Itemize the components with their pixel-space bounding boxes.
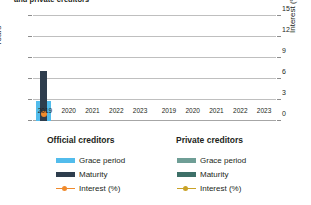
legend-label: Maturity bbox=[79, 170, 107, 179]
y-axis-right-tick-label: 9 bbox=[282, 47, 304, 54]
legend-label: Maturity bbox=[200, 170, 228, 179]
category-group bbox=[205, 16, 229, 121]
category-group bbox=[33, 16, 57, 121]
legend-line-marker-icon bbox=[177, 186, 196, 191]
panel-private-creditors bbox=[157, 16, 276, 121]
category-group bbox=[252, 16, 276, 121]
legend-swatch-icon bbox=[56, 158, 75, 163]
x-axis-tick-label: 2019 bbox=[33, 107, 57, 114]
x-axis-tick-label: 2022 bbox=[228, 107, 252, 114]
legend-item[interactable]: Grace period bbox=[177, 153, 246, 167]
panel-heading-official: Official creditors bbox=[47, 135, 115, 145]
legend-private-creditors: Grace periodMaturityInterest (%) bbox=[177, 153, 246, 195]
category-group bbox=[104, 16, 128, 121]
y-axis-right-tick-label: 6 bbox=[282, 68, 304, 75]
x-axis-tick-label: 2020 bbox=[181, 107, 205, 114]
tick-mark bbox=[277, 36, 281, 37]
tick-mark bbox=[28, 120, 32, 121]
tick-mark bbox=[28, 36, 32, 37]
category-group bbox=[128, 16, 152, 121]
tick-mark bbox=[277, 15, 281, 16]
legend-official-creditors: Grace periodMaturityInterest (%) bbox=[56, 153, 125, 195]
x-axis-labels-official: 20192020202120222023 bbox=[33, 107, 152, 117]
y-axis-right-tick-label: 0 bbox=[282, 110, 304, 117]
legend-item[interactable]: Maturity bbox=[177, 167, 246, 181]
legend-item[interactable]: Interest (%) bbox=[56, 181, 125, 195]
x-axis-tick-label: 2022 bbox=[104, 107, 128, 114]
chart-title: and private creditors bbox=[14, 0, 89, 4]
x-axis-tick-label: 2023 bbox=[252, 107, 276, 114]
y-axis-left-title: Years bbox=[0, 26, 3, 46]
legend-swatch-icon bbox=[177, 158, 196, 163]
legend-line-marker-icon bbox=[56, 186, 75, 191]
tick-mark bbox=[28, 15, 32, 16]
category-group bbox=[181, 16, 205, 121]
legend-item[interactable]: Grace period bbox=[56, 153, 125, 167]
legend-label: Grace period bbox=[79, 156, 125, 165]
category-group bbox=[81, 16, 105, 121]
legend-item[interactable]: Maturity bbox=[56, 167, 125, 181]
x-axis-tick-label: 2019 bbox=[157, 107, 181, 114]
category-group bbox=[57, 16, 81, 121]
legend-label: Interest (%) bbox=[200, 184, 241, 193]
x-axis-tick-label: 2020 bbox=[57, 107, 81, 114]
tick-mark bbox=[28, 99, 32, 100]
panel-heading-private: Private creditors bbox=[176, 135, 243, 145]
y-axis-right-tick-label: 3 bbox=[282, 89, 304, 96]
legend-item[interactable]: Interest (%) bbox=[177, 181, 246, 195]
category-group bbox=[228, 16, 252, 121]
legend-swatch-icon bbox=[177, 172, 196, 177]
x-axis-tick-label: 2023 bbox=[128, 107, 152, 114]
tick-mark bbox=[277, 78, 281, 79]
tick-mark bbox=[277, 57, 281, 58]
tick-mark bbox=[28, 78, 32, 79]
x-axis-labels-private: 20192020202120222023 bbox=[157, 107, 276, 117]
tick-mark bbox=[277, 120, 281, 121]
legend-swatch-icon bbox=[56, 172, 75, 177]
plot-area: 01020304050 03691215 bbox=[33, 16, 276, 121]
x-axis-tick-label: 2021 bbox=[205, 107, 229, 114]
y-axis-right-title: Interest (%) bbox=[288, 0, 297, 33]
tick-mark bbox=[277, 99, 281, 100]
legend-label: Interest (%) bbox=[79, 184, 120, 193]
panel-official-creditors bbox=[33, 16, 152, 121]
category-group bbox=[157, 16, 181, 121]
legend-label: Grace period bbox=[200, 156, 246, 165]
x-axis-tick-label: 2021 bbox=[81, 107, 105, 114]
tick-mark bbox=[28, 57, 32, 58]
